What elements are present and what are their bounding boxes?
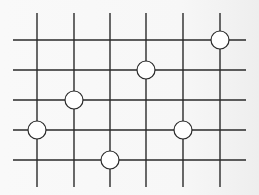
circle-marker-icon xyxy=(28,121,46,139)
circle-marker-icon xyxy=(137,61,155,79)
circle-marker-icon xyxy=(65,91,83,109)
circle-marker-icon xyxy=(101,151,119,169)
circle-marker-icon xyxy=(211,31,229,49)
grid-diagram xyxy=(0,0,259,195)
circle-marker-icon xyxy=(174,121,192,139)
horizontal-grid-lines xyxy=(13,40,246,160)
diagram-canvas xyxy=(0,0,259,195)
